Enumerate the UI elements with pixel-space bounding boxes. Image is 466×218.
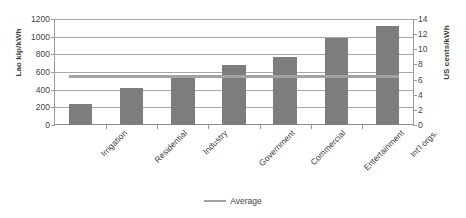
left-tick-label: 200 [20,102,50,112]
right-tick-label: 12 [418,29,448,39]
right-tick-label: 2 [418,105,448,115]
bar [69,104,93,125]
bar [325,38,349,125]
bar-slot [260,19,311,125]
right-tickmark [413,49,417,50]
bar-chart: Lao kip/kWh US cents/kWh 020040060080010… [0,0,466,218]
right-tickmark [413,19,417,20]
category-label: Commercial [308,128,347,167]
category-label: Entertainment [362,128,406,172]
plot-area [54,19,414,125]
bar-slot [362,19,413,125]
bar [120,88,144,125]
left-tick-label: 600 [20,67,50,77]
right-tick-label: 6 [418,75,448,85]
left-tickmark [51,125,55,126]
right-tickmark [413,80,417,81]
legend-item-average: Average [230,196,262,206]
bar-slot [208,19,259,125]
right-tickmark [413,95,417,96]
bar-slot [106,19,157,125]
bar [171,75,195,125]
bar-slot [311,19,362,125]
bar-series [55,19,413,125]
left-tick-label: 1200 [20,14,50,24]
right-tickmark [413,64,417,65]
category-label: Government [257,128,297,168]
right-tickmark [413,34,417,35]
right-axis-tick-labels: 02468101214 [418,0,450,218]
right-tickmark [413,125,417,126]
left-tick-label: 0 [20,120,50,130]
bar-slot [157,19,208,125]
bar [273,57,297,125]
legend-line-swatch [204,200,226,202]
category-label: Industry [201,128,229,156]
category-label: Residential [153,128,190,165]
left-axis-tick-labels: 020040060080010001200 [18,0,50,218]
right-tickmark [413,110,417,111]
right-tick-label: 10 [418,44,448,54]
category-axis-labels: IrrigationResidentialIndustryGovernmentC… [54,128,414,186]
bar [222,65,246,126]
average-line [69,75,398,78]
category-label: Irrigation [99,128,129,158]
left-tick-label: 1000 [20,32,50,42]
right-tick-label: 8 [418,59,448,69]
chart-legend: Average [0,196,466,206]
right-tick-label: 4 [418,90,448,100]
left-tick-label: 800 [20,49,50,59]
bar-slot [55,19,106,125]
right-tick-label: 14 [418,14,448,24]
left-tick-label: 400 [20,85,50,95]
